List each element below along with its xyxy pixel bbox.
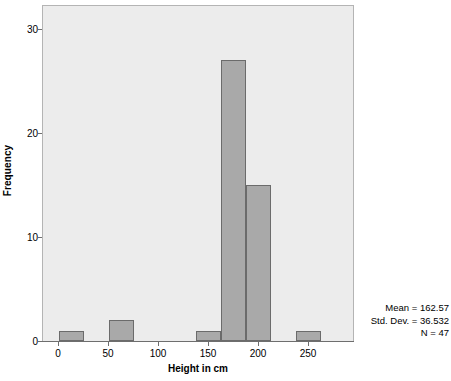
x-axis-tick-mark xyxy=(308,342,309,346)
x-axis-tick-mark xyxy=(258,342,259,346)
x-axis-title: Height in cm xyxy=(42,363,354,374)
stat-n: N = 47 xyxy=(356,327,449,340)
histogram-bar xyxy=(296,331,321,341)
x-axis-tick-label: 150 xyxy=(200,348,217,359)
x-axis-tick-label: 200 xyxy=(250,348,267,359)
histogram-bar xyxy=(109,320,134,341)
y-axis-tick-label: 20 xyxy=(18,128,42,139)
stat-std-dev: Std. Dev. = 36.532 xyxy=(356,315,449,328)
y-axis-title-label: Frequency xyxy=(3,145,14,196)
bars-layer xyxy=(43,6,353,341)
x-axis-tick-mark xyxy=(158,342,159,346)
stat-mean: Mean = 162.57 xyxy=(356,302,449,315)
x-axis-tick-mark xyxy=(208,342,209,346)
histogram-figure: Frequency 0102030 050100150200250 Height… xyxy=(0,0,451,381)
statistics-annotation: Mean = 162.57 Std. Dev. = 36.532 N = 47 xyxy=(356,302,451,340)
histogram-bar xyxy=(59,331,84,341)
plot-area xyxy=(42,5,354,341)
x-axis-tick-mark xyxy=(108,342,109,346)
y-axis-title: Frequency xyxy=(0,0,16,341)
y-axis-tick-label: 10 xyxy=(18,232,42,243)
histogram-bar xyxy=(221,60,246,341)
y-axis-tick-label: 0 xyxy=(18,336,42,347)
x-axis-tick-label: 250 xyxy=(300,348,317,359)
x-axis-tick-label: 50 xyxy=(102,348,113,359)
x-axis-tick-label: 0 xyxy=(55,348,61,359)
histogram-bar xyxy=(196,331,221,341)
x-axis-tick-mark xyxy=(58,342,59,346)
y-axis-tick-label: 30 xyxy=(18,24,42,35)
histogram-bar xyxy=(246,185,271,341)
x-axis-tick-label: 100 xyxy=(150,348,167,359)
y-axis-ticks: 0102030 xyxy=(18,0,42,381)
